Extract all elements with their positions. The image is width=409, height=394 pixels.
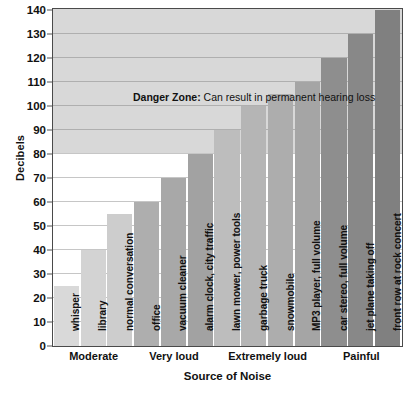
bar-category-label: MP3 player, full volume <box>312 220 322 331</box>
y-tick-label: 140 <box>27 4 46 16</box>
y-tick-label: 40 <box>33 244 46 256</box>
bar-category-label: garbage truck <box>259 265 269 331</box>
x-axis-title: Source of Noise <box>52 370 403 382</box>
bar-category-label: car stereo, full volume <box>339 225 349 331</box>
bar-category-label: alarm clock, city traffic <box>205 223 215 331</box>
danger-zone-description: Can result in permanent hearing loss <box>201 91 376 103</box>
plot-area: Danger Zone: Can result in permanent hea… <box>52 8 403 347</box>
bar <box>81 250 106 346</box>
danger-zone-bold-text: Danger Zone: <box>133 91 201 103</box>
y-tick-label: 120 <box>27 52 46 64</box>
danger-zone-annotation: Danger Zone: Can result in permanent hea… <box>133 91 375 103</box>
bar-category-label: snowmobile <box>286 273 296 331</box>
bar-category-label: lawn mower, power tools <box>232 213 242 331</box>
bar-category-label: normal conversation <box>125 233 135 331</box>
x-axis-group-label: Moderate <box>54 350 134 362</box>
y-tick-label: 50 <box>33 220 46 232</box>
y-tick-label: 70 <box>33 172 46 184</box>
x-axis-group-label: Very loud <box>134 350 214 362</box>
y-tick-label: 30 <box>33 268 46 280</box>
bar-category-label: library <box>98 300 108 331</box>
decibel-bar-chart: Decibels 0102030405060708090100110120130… <box>0 0 409 394</box>
y-axis-tick-labels: 0102030405060708090100110120130140 <box>16 0 52 394</box>
y-tick-label: 130 <box>27 28 46 40</box>
x-axis-group-labels: ModerateVery loudExtremely loudPainful <box>52 350 403 368</box>
y-tick-label: 0 <box>40 340 46 352</box>
x-axis-group-label: Painful <box>321 350 401 362</box>
bar-category-label: front row at rock concert <box>393 213 403 331</box>
y-tick-label: 110 <box>27 76 46 88</box>
y-tick-label: 100 <box>27 100 46 112</box>
bar-category-label: vacuum cleaner <box>178 255 188 331</box>
y-tick-label: 90 <box>33 124 46 136</box>
x-axis-group-label: Extremely loud <box>214 350 321 362</box>
y-tick-label: 60 <box>33 196 46 208</box>
bars-container: whisperlibrarynormal conversationofficev… <box>53 9 402 346</box>
bar-category-label: whisper <box>71 293 81 331</box>
y-tick-label: 20 <box>33 292 46 304</box>
bar-category-label: office <box>152 304 162 331</box>
bar-category-label: jet plane taking off <box>366 243 376 331</box>
y-tick-label: 80 <box>33 148 46 160</box>
y-tick-label: 10 <box>33 316 46 328</box>
